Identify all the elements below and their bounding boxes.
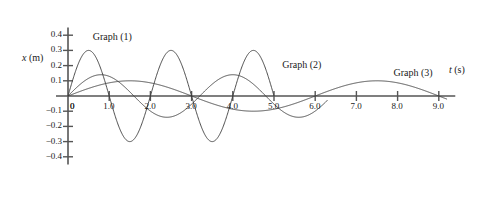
- y-tick-label: 0: [70, 101, 75, 111]
- y-tick-label: −0.2: [34, 120, 62, 130]
- x-tick-label: 9.0: [433, 101, 444, 111]
- curve-annotation: Graph (2): [282, 59, 321, 70]
- x-tick-label: 6.0: [309, 101, 320, 111]
- x-tick-label: 2.0: [144, 101, 155, 111]
- x-tick-label: 7.0: [350, 101, 361, 111]
- x-tick-label: 8.0: [392, 101, 403, 111]
- x-tick-label: 5.0: [268, 101, 279, 111]
- x-tick-label: 1.0: [103, 101, 114, 111]
- y-tick-label: −0.3: [34, 136, 62, 146]
- y-axis-title: x (m): [22, 52, 43, 63]
- axis-group: [56, 28, 455, 165]
- y-tick-label: −0.1: [34, 105, 62, 115]
- x-tick-label: 4.0: [227, 101, 238, 111]
- curve-annotation: Graph (1): [93, 31, 132, 42]
- curve-annotation: Graph (3): [393, 67, 432, 78]
- x-tick-label: 3.0: [186, 101, 197, 111]
- y-tick-label: 0.4: [34, 29, 62, 39]
- oscillation-figure: 01.02.03.04.05.06.07.08.09.00.40.30.20.1…: [0, 0, 497, 206]
- y-tick-label: 0.1: [34, 75, 62, 85]
- x-axis-title: t (s): [449, 64, 465, 75]
- y-tick-label: −0.4: [34, 151, 62, 161]
